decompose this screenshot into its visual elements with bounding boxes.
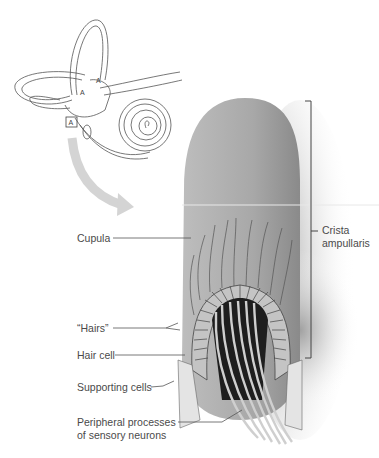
cupula-label: Cupula	[77, 232, 110, 244]
peripheral-processes-label-line2: of sensory neurons	[77, 429, 166, 441]
ampulla-marker-box: A	[69, 119, 74, 126]
crista-ampullaris-label-line1: Crista	[322, 224, 349, 236]
inner-ear-inset: A A A	[15, 20, 182, 159]
hairs-label: “Hairs”	[77, 322, 109, 334]
supporting-cells-label: Supporting cells	[77, 381, 152, 393]
crista-ampullaris-diagram: A A A	[0, 0, 379, 458]
hair-cell-label: Hair cell	[77, 349, 115, 361]
ampulla-marker-2: A	[96, 77, 101, 84]
peripheral-processes-label-line1: Peripheral processes	[77, 416, 176, 428]
ampulla-marker-1: A	[80, 89, 85, 96]
curved-arrow-icon	[72, 138, 134, 216]
crista-ampullaris-label-line2: ampullaris	[322, 237, 370, 249]
